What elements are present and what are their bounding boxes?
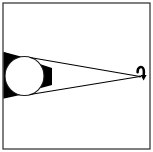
focal-point-marker [139,75,141,77]
shadow-cone-diagram [0,0,153,152]
figure-container [0,0,153,152]
occluding-circle [5,57,44,96]
